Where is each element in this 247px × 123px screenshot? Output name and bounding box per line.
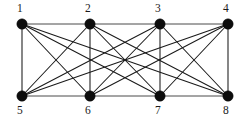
graph-canvas [0,0,247,123]
vertex-label-1: 1 [17,3,23,15]
graph-vertex-2[interactable] [85,19,95,29]
graph-vertex-8[interactable] [223,91,233,101]
graph-vertex-7[interactable] [155,91,165,101]
graph-vertex-3[interactable] [155,19,165,29]
vertex-label-3: 3 [155,3,161,15]
vertex-label-5: 5 [17,105,23,117]
vertex-label-8: 8 [223,105,229,117]
graph-vertex-4[interactable] [223,19,233,29]
graph-vertex-6[interactable] [85,91,95,101]
vertex-label-7: 7 [155,105,161,117]
graph-figure: 12345678 [0,0,247,123]
vertex-label-4: 4 [223,3,229,15]
edge-layer [22,24,228,96]
vertex-label-2: 2 [85,3,91,15]
vertex-label-6: 6 [85,105,91,117]
graph-vertex-1[interactable] [17,19,27,29]
graph-vertex-5[interactable] [17,91,27,101]
